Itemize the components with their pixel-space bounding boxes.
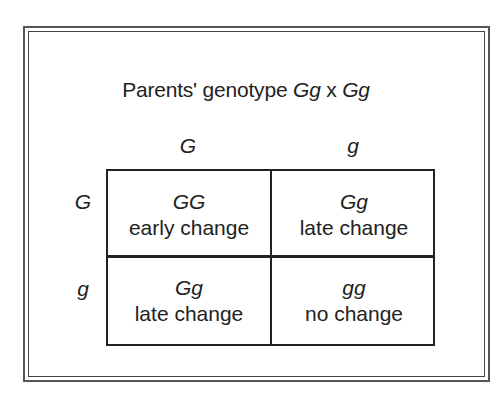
punnett-cell-Gg-bottom: Gg late change bbox=[107, 275, 271, 327]
punnett-cell-Gg-top: Gg late change bbox=[272, 189, 436, 241]
punnett-cell-GG: GG early change bbox=[107, 189, 271, 241]
row-allele-label-1: G bbox=[68, 190, 98, 214]
diagram-title: Parents' genotype Gg x Gg bbox=[0, 78, 492, 102]
cell-phenotype: no change bbox=[272, 301, 436, 327]
column-allele-label-2: g bbox=[271, 134, 435, 158]
title-prefix: Parents' genotype bbox=[122, 78, 293, 101]
cell-genotype: gg bbox=[272, 275, 436, 301]
row-allele-label-2: g bbox=[68, 277, 98, 301]
cell-genotype: Gg bbox=[272, 189, 436, 215]
cell-phenotype: late change bbox=[272, 215, 436, 241]
title-parent1-genotype: Gg bbox=[293, 78, 321, 101]
cell-genotype: Gg bbox=[107, 275, 271, 301]
cell-phenotype: late change bbox=[107, 301, 271, 327]
cell-phenotype: early change bbox=[107, 215, 271, 241]
title-parent2-genotype: Gg bbox=[342, 78, 370, 101]
cell-genotype: GG bbox=[107, 189, 271, 215]
title-cross-symbol: x bbox=[321, 78, 343, 101]
grid-horizontal-divider bbox=[106, 255, 435, 258]
punnett-cell-gg: gg no change bbox=[272, 275, 436, 327]
column-allele-label-1: G bbox=[106, 134, 270, 158]
